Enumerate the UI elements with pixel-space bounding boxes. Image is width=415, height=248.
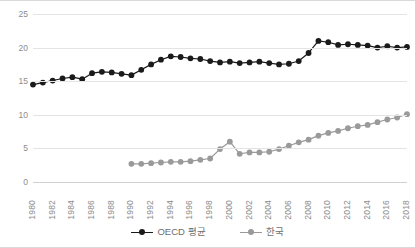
data-point (266, 149, 272, 155)
x-tick-label-2008: 2008 (304, 200, 313, 220)
data-point (178, 159, 184, 165)
legend-label: OECD 평균 (157, 227, 205, 237)
x-tick-label-2018: 2018 (402, 200, 411, 220)
data-point (296, 139, 302, 145)
data-point (247, 59, 253, 65)
x-tick-label-1998: 1998 (205, 200, 214, 220)
legend-item-한국[interactable]: 한국 (240, 227, 284, 237)
data-point (237, 60, 243, 66)
series-layer (33, 14, 407, 182)
data-point (129, 161, 135, 167)
gridline-15 (33, 81, 407, 82)
plot-area (33, 14, 407, 182)
x-tick-label-2014: 2014 (363, 200, 372, 220)
data-point (345, 41, 351, 47)
data-point (158, 57, 164, 63)
data-point (99, 69, 105, 75)
data-point (148, 160, 154, 166)
data-point (375, 119, 381, 125)
data-point (207, 156, 213, 162)
data-point (306, 137, 312, 143)
data-point (188, 158, 194, 164)
data-point (306, 50, 312, 56)
gridline-20 (33, 48, 407, 49)
data-point (286, 61, 292, 67)
data-point (129, 72, 135, 78)
data-point (256, 150, 262, 156)
y-tick-label-25: 25 (4, 10, 28, 19)
data-point (89, 70, 95, 76)
data-point (197, 56, 203, 62)
data-point (207, 58, 213, 64)
x-tick-label-2010: 2010 (323, 200, 332, 220)
x-tick-label-2016: 2016 (382, 200, 391, 220)
data-point (247, 150, 253, 156)
data-point (325, 130, 331, 136)
x-tick-label-1984: 1984 (67, 200, 76, 220)
data-point (296, 58, 302, 64)
data-point (197, 157, 203, 163)
x-tick-label-1992: 1992 (146, 200, 155, 220)
y-tick-label-5: 5 (4, 144, 28, 153)
data-point (276, 62, 282, 68)
data-point (138, 67, 144, 73)
data-point (158, 160, 164, 166)
data-point (109, 70, 115, 76)
data-point (316, 38, 322, 44)
series-line-한국 (131, 114, 407, 164)
y-tick-label-10: 10 (4, 111, 28, 120)
data-point (345, 125, 351, 131)
data-point (227, 139, 233, 145)
gridline-10 (33, 115, 407, 116)
data-point (188, 55, 194, 61)
data-point (138, 161, 144, 167)
x-tick-label-2012: 2012 (343, 200, 352, 220)
gridline-25 (33, 14, 407, 15)
x-tick-label-2002: 2002 (245, 200, 254, 220)
legend-key-icon (131, 228, 153, 237)
data-point (178, 54, 184, 60)
data-point (316, 133, 322, 139)
line-chart: 0510152025 19801982198419861988199019921… (0, 0, 415, 248)
data-point (119, 71, 125, 77)
data-point (168, 53, 174, 59)
data-point (325, 39, 331, 45)
legend-label: 한국 (266, 227, 284, 237)
x-tick-label-1986: 1986 (87, 200, 96, 220)
data-point (237, 151, 243, 157)
y-tick-label-0: 0 (4, 178, 28, 187)
data-point (384, 117, 390, 123)
x-tick-label-1994: 1994 (166, 200, 175, 220)
legend-item-OECD 평균[interactable]: OECD 평균 (131, 227, 205, 237)
x-tick-label-1996: 1996 (185, 200, 194, 220)
y-tick-label-20: 20 (4, 44, 28, 53)
data-point (227, 59, 233, 65)
x-tick-label-1990: 1990 (126, 200, 135, 220)
data-point (30, 82, 36, 88)
x-tick-label-2006: 2006 (284, 200, 293, 220)
chart-legend: OECD 평균한국 (0, 223, 415, 241)
y-tick-label-15: 15 (4, 77, 28, 86)
x-tick-label-1980: 1980 (28, 200, 37, 220)
gridline-5 (33, 148, 407, 149)
data-point (69, 74, 75, 80)
x-tick-label-1982: 1982 (48, 200, 57, 220)
data-point (355, 123, 361, 129)
data-point (168, 159, 174, 165)
data-point (335, 128, 341, 134)
x-tick-label-2004: 2004 (264, 200, 273, 220)
data-point (217, 59, 223, 65)
gridline-0 (33, 182, 407, 183)
legend-key-icon (240, 228, 262, 237)
data-point (256, 59, 262, 65)
data-point (365, 122, 371, 128)
x-tick-label-2000: 2000 (225, 200, 234, 220)
data-point (148, 62, 154, 68)
x-tick-label-1988: 1988 (107, 200, 116, 220)
x-axis: 1980198219841986198819901992199419961998… (33, 184, 407, 220)
data-point (266, 60, 272, 66)
